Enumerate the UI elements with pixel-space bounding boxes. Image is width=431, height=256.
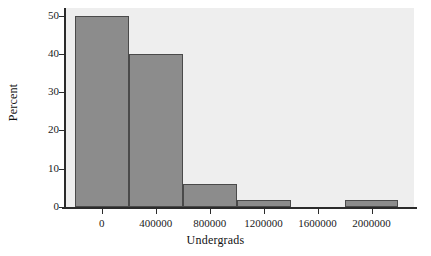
y-tick-mark	[59, 92, 65, 93]
y-tick-label: 40	[37, 48, 59, 59]
x-tick-mark	[156, 208, 157, 214]
x-tick-label: 0	[99, 217, 105, 229]
y-tick-mark	[59, 169, 65, 170]
plot-area	[66, 8, 414, 207]
y-tick-label: 0	[37, 201, 59, 212]
x-tick-label: 1600000	[298, 217, 337, 229]
histogram-bar	[345, 200, 399, 207]
x-tick-label: 800000	[193, 217, 226, 229]
y-axis-line	[64, 8, 66, 207]
histogram-figure: 01020304050 0400000800000120000016000002…	[0, 0, 431, 256]
x-tick-mark	[372, 208, 373, 214]
histogram-bar	[183, 184, 237, 207]
bars-layer	[66, 8, 414, 207]
y-tick-mark	[59, 54, 65, 55]
x-axis-line	[62, 207, 417, 209]
x-axis-title: Undergrads	[0, 233, 431, 248]
y-tick-mark	[59, 130, 65, 131]
x-tick-mark	[318, 208, 319, 214]
y-axis-title: Percent	[6, 68, 21, 138]
y-tick-mark	[59, 16, 65, 17]
y-tick-label: 50	[37, 10, 59, 21]
x-tick-mark	[102, 208, 103, 214]
y-tick-label: 10	[37, 163, 59, 174]
x-tick-mark	[210, 208, 211, 214]
x-tick-label: 2000000	[352, 217, 391, 229]
y-tick-label: 20	[37, 124, 59, 135]
y-tick-label: 30	[37, 86, 59, 97]
histogram-bar	[129, 54, 183, 207]
x-tick-label: 1200000	[244, 217, 283, 229]
x-tick-label: 400000	[139, 217, 172, 229]
y-tick-mark	[59, 207, 65, 208]
histogram-bar	[75, 16, 129, 207]
x-tick-mark	[264, 208, 265, 214]
histogram-bar	[237, 200, 291, 207]
